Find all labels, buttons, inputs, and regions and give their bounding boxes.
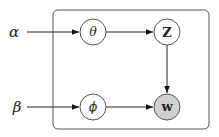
label-z: Z — [162, 25, 172, 40]
plate — [53, 10, 209, 129]
label-phi: ϕ — [89, 100, 97, 114]
label-w: w — [160, 99, 173, 114]
graphical-model-diagram: α β θ Z ϕ w — [0, 0, 219, 137]
label-alpha: α — [9, 23, 19, 41]
label-theta: θ — [89, 25, 97, 39]
label-beta: β — [12, 98, 22, 116]
